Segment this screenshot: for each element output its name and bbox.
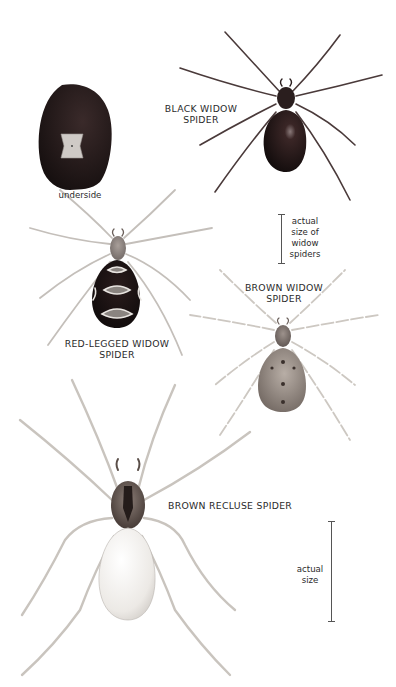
recluse-scale-line1: actual bbox=[296, 564, 324, 575]
widow-scale-line1: actual bbox=[288, 216, 322, 227]
widow-scale-line3: widow bbox=[288, 238, 322, 249]
red-legged-widow-label-line1: RED-LEGGED WIDOW bbox=[62, 338, 172, 349]
underside-abdomen bbox=[39, 84, 112, 190]
red-legged-widow-spider bbox=[30, 190, 212, 355]
black-widow-label: BLACK WIDOW SPIDER bbox=[162, 103, 240, 125]
widow-scale-bar bbox=[281, 214, 282, 264]
brown-widow-label: BROWN WIDOW SPIDER bbox=[242, 282, 326, 304]
red-legged-widow-label: RED-LEGGED WIDOW SPIDER bbox=[62, 338, 172, 360]
brown-widow-label-line1: BROWN WIDOW bbox=[242, 282, 326, 293]
recluse-scale-line2: size bbox=[296, 575, 324, 586]
brown-recluse-label: BROWN RECLUSE SPIDER bbox=[168, 500, 286, 511]
black-widow-label-line2: SPIDER bbox=[162, 114, 240, 125]
widow-scale-line2: size of bbox=[288, 227, 322, 238]
widow-scale-line4: spiders bbox=[288, 249, 322, 260]
recluse-scale-caption: actual size bbox=[296, 564, 324, 586]
brown-recluse-spider bbox=[20, 380, 250, 675]
red-legged-widow-label-line2: SPIDER bbox=[62, 349, 172, 360]
recluse-scale-bar bbox=[331, 521, 332, 622]
underside-caption: underside bbox=[55, 190, 105, 201]
widow-scale-caption: actual size of widow spiders bbox=[288, 216, 322, 260]
brown-widow-label-line2: SPIDER bbox=[242, 293, 326, 304]
black-widow-label-line1: BLACK WIDOW bbox=[162, 103, 240, 114]
